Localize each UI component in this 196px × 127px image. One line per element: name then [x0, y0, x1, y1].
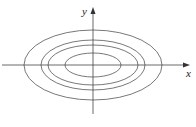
- x-axis-label: x: [185, 67, 191, 79]
- y-axis-arrow-icon: [91, 7, 96, 14]
- contour-diagram: x y: [0, 0, 196, 127]
- y-axis-label: y: [81, 5, 87, 17]
